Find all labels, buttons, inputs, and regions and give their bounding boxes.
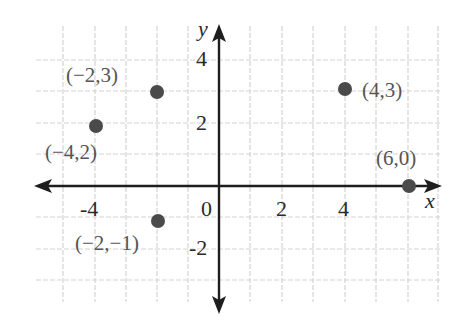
point-neg4-2	[89, 119, 103, 133]
point-neg2-neg1	[151, 214, 165, 228]
point-label-neg2-3: (−2,3)	[66, 63, 118, 87]
x-tick-2: 2	[276, 196, 287, 221]
data-points	[89, 82, 416, 228]
point-label-6-0: (6,0)	[376, 146, 416, 170]
y-tick-2: 2	[196, 110, 207, 135]
point-label-neg4-2: (−4,2)	[45, 140, 97, 164]
x-tick-0: 0	[201, 196, 212, 221]
y-axis-label: y	[196, 16, 208, 41]
y-tick-4: 4	[196, 46, 207, 71]
y-tick-neg2: -2	[189, 235, 207, 260]
x-tick-4: 4	[338, 196, 349, 221]
x-axis-label: x	[424, 188, 435, 213]
point-label-neg2-neg1: (−2,−1)	[75, 231, 139, 255]
y-axis	[212, 24, 226, 314]
coordinate-plane: x y -4 0 2 4 4 2 -2 (−2,3) (−4,2) (4,3) …	[0, 0, 461, 322]
point-4-3	[338, 82, 352, 96]
point-neg2-3	[150, 85, 164, 99]
point-6-0	[402, 179, 416, 193]
point-label-4-3: (4,3)	[362, 78, 402, 102]
x-tick-neg4: -4	[80, 196, 98, 221]
